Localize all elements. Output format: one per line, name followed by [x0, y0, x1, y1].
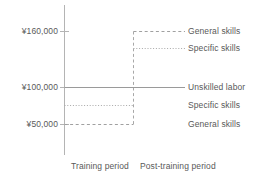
wage-profile-chart: ¥160,000 ¥100,000 ¥50,000 General skills… [0, 0, 261, 182]
x-axis-label-post-training-period: Post-training period [140, 161, 216, 171]
x-axis-label-training-period: Training period [71, 161, 129, 171]
series-label-general-skills-high: General skills [188, 26, 240, 36]
series-label-specific-skills-high: Specific skills [188, 43, 240, 53]
y-axis-tick-label-100000: ¥100,000 [2, 82, 58, 92]
series-label-specific-skills-low: Specific skills [188, 100, 240, 110]
y-axis-tick-label-160000: ¥160,000 [2, 26, 58, 36]
series-label-unskilled-labor: Unskilled labor [188, 82, 245, 92]
series-label-general-skills-low: General skills [188, 119, 240, 129]
y-axis-tick-label-50000: ¥50,000 [2, 119, 58, 129]
